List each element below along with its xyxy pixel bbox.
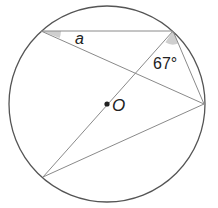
angle-67-label: 67° — [153, 55, 177, 72]
chord-ac — [41, 31, 204, 104]
diagram-canvas: a 67° O — [0, 0, 218, 208]
angle-a-label: a — [75, 30, 84, 47]
chord-bc — [173, 31, 204, 104]
center-label: O — [112, 96, 125, 115]
center-point — [104, 101, 109, 106]
circle-theorem-diagram: a 67° O — [0, 0, 218, 208]
